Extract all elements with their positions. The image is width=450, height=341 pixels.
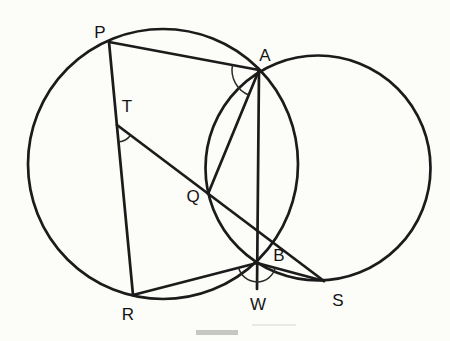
segment-PA [109, 42, 259, 70]
segment-ABW [257, 70, 259, 289]
label-B: B [273, 246, 284, 265]
segment-RB [133, 263, 257, 295]
segment-AQ [208, 70, 259, 194]
caption-remnant [196, 324, 296, 335]
label-W: W [250, 295, 266, 314]
geometry-figure: P A T Q B R W S [0, 0, 450, 341]
label-Q: Q [186, 187, 199, 206]
label-R: R [122, 305, 134, 324]
label-A: A [259, 46, 271, 65]
segment-PR [109, 42, 133, 295]
angle-mark-T [119, 135, 131, 142]
caption-remnant-line [252, 324, 296, 326]
caption-remnant-bar [196, 330, 238, 335]
label-S: S [332, 291, 343, 310]
label-T: T [122, 97, 132, 116]
label-P: P [94, 23, 105, 42]
diagram-canvas: P A T Q B R W S [0, 0, 450, 341]
